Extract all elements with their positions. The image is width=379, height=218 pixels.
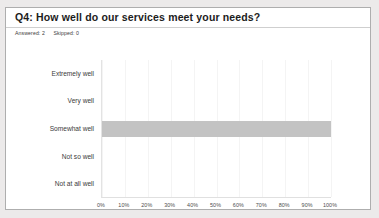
page-title: Q4: How well do our services meet your n…: [15, 11, 260, 23]
x-axis-tick-label: 40%: [187, 202, 198, 208]
y-axis-label: Not so well: [62, 152, 94, 162]
bar-row: [102, 88, 331, 116]
bar-row: [102, 143, 331, 171]
x-axis-tick-label: 60%: [233, 202, 244, 208]
x-axis-tick-label: 20%: [141, 202, 152, 208]
x-axis-tick-label: 90%: [302, 202, 313, 208]
bar-row: [102, 115, 331, 143]
bar-chart: Extremely wellVery wellSomewhat wellNot …: [6, 50, 372, 210]
bar-row: [102, 170, 331, 198]
skipped-value: 0: [76, 30, 79, 36]
y-axis-label: Somewhat well: [50, 124, 94, 134]
x-axis-tick-label: 70%: [256, 202, 267, 208]
y-axis-label: Very well: [68, 96, 94, 106]
x-axis-tick-label: 30%: [164, 202, 175, 208]
y-axis-category-labels: Extremely wellVery wellSomewhat wellNot …: [6, 60, 98, 190]
skipped-label: Skipped:: [54, 30, 75, 36]
x-axis-tick-label: 0%: [97, 202, 105, 208]
x-axis-tick-label: 100%: [323, 202, 337, 208]
bar-row: [102, 60, 331, 88]
plot-area: [101, 60, 331, 198]
answered-label: Answered:: [15, 30, 40, 36]
x-axis-tick-labels: 0%10%20%30%40%50%60%70%80%90%100%: [101, 202, 331, 212]
skipped-meta: Skipped: 0: [54, 30, 80, 36]
y-axis-label: Extremely well: [51, 69, 94, 79]
bar-somewhat-well[interactable]: [102, 121, 331, 137]
x-axis-tick-label: 80%: [279, 202, 290, 208]
x-axis-tick-label: 10%: [118, 202, 129, 208]
answered-value: 2: [42, 30, 45, 36]
card-header: Q4: How well do our services meet your n…: [6, 8, 370, 28]
gridline: [331, 60, 332, 197]
x-axis-tick-label: 50%: [210, 202, 221, 208]
response-meta: Answered: 2 Skipped: 0: [15, 30, 86, 36]
answered-meta: Answered: 2: [15, 30, 45, 36]
survey-question-card: Q4: How well do our services meet your n…: [5, 7, 371, 210]
y-axis-label: Not at all well: [55, 179, 94, 189]
